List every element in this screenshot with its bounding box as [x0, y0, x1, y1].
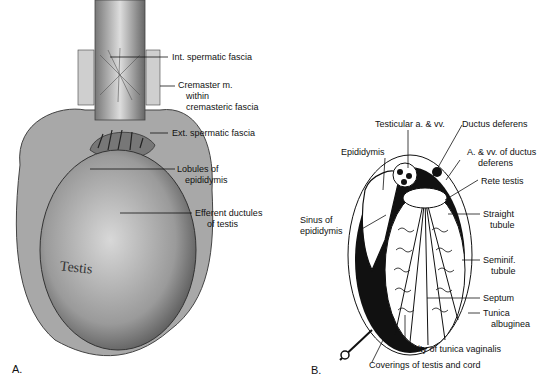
figure-b-drawing — [340, 155, 472, 360]
label-rete-testis: Rete testis — [481, 176, 524, 187]
label-straight-line2: tubule — [490, 220, 515, 231]
label-sinus-line2: epididymis — [300, 226, 343, 237]
panel-label-b: B. — [311, 364, 321, 376]
panel-label-a: A. — [12, 363, 22, 375]
label-epididymis: Epididymis — [341, 147, 385, 158]
label-testis: Testis — [60, 260, 93, 274]
label-ext-spermatic-fascia: Ext. spermatic fascia — [172, 128, 255, 139]
label-testicular-vessels: Testicular a. & vv. — [375, 119, 445, 130]
label-efferent-line2: of testis — [207, 219, 238, 230]
label-cavity-tunica-vaginalis: Cavity of tunica vaginalis — [402, 344, 501, 355]
label-sinus-line1: Sinus of — [300, 215, 333, 226]
label-a-vv-ductus-line2: deferens — [478, 158, 513, 169]
label-a-vv-ductus-line1: A. & vv. of ductus — [467, 147, 536, 158]
anatomy-illustrations — [0, 0, 541, 381]
label-seminif-line1: Seminif. — [483, 255, 516, 266]
label-seminif-line2: tubule — [491, 266, 516, 277]
label-septum: Septum — [483, 293, 514, 304]
label-tunica-albuginea-line1: Tunica — [483, 308, 510, 319]
label-coverings: Coverings of testis and cord — [369, 360, 481, 371]
label-int-spermatic-fascia: Int. spermatic fascia — [172, 52, 252, 63]
label-straight-line1: Straight — [483, 209, 514, 220]
label-efferent-line1: Efferent ductules — [195, 208, 262, 219]
label-lobules-line2: epididymis — [185, 175, 228, 186]
label-ductus-deferens: Ductus deferens — [462, 119, 528, 130]
label-cremaster-line1: Cremaster m. — [178, 80, 233, 91]
label-lobules-line1: Lobules of — [177, 164, 219, 175]
label-cremaster-line2: within — [186, 91, 209, 102]
label-tunica-albuginea-line2: albuginea — [491, 319, 530, 330]
label-cremaster-line3: cremasteric fascia — [186, 102, 259, 113]
